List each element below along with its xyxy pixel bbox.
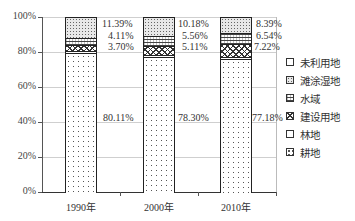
farmland-swatch-icon: [286, 148, 294, 156]
label-2000-farmland: 78.30%: [178, 112, 209, 123]
y-tick-label: 40%: [2, 115, 36, 126]
legend-item-unused-land: 未利用地: [286, 53, 340, 71]
legend-item-farmland: 耕地: [286, 143, 340, 161]
legend-item-forest: 林地: [286, 125, 340, 143]
legend-label: 水域: [300, 91, 320, 106]
legend-label: 滩涂湿地: [300, 73, 340, 88]
y-tick-mark: [38, 122, 42, 123]
label-2010-unused: 8.39%: [256, 18, 282, 29]
y-tick-label: 0%: [2, 185, 36, 196]
forest-swatch-icon: [286, 130, 294, 138]
construction-land-swatch-icon: [286, 112, 294, 120]
label-1990-construction: 3.70%: [108, 41, 134, 52]
water-swatch-icon: [286, 94, 294, 102]
label-1990-farmland: 80.11%: [103, 112, 133, 123]
label-2010-farmland: 77.18%: [252, 112, 283, 123]
segment-farmland: [221, 59, 251, 193]
segment-unused-land: [144, 18, 174, 36]
x-tick-mark: [198, 192, 199, 196]
segment-unused-land: [221, 18, 251, 33]
segment-farmland: [144, 57, 174, 193]
chart-legend: 未利用地 滩涂湿地 水域 建设用地 林地 耕地: [286, 53, 340, 161]
legend-item-construction-land: 建设用地: [286, 107, 340, 125]
segment-construction-land: [144, 46, 174, 55]
segment-unused-land: [66, 18, 96, 38]
segment-wetland: [221, 33, 251, 44]
segment-construction-land: [221, 44, 251, 57]
segment-wetland: [66, 38, 96, 45]
bar-2010: [220, 17, 252, 193]
label-2000-wetland: 5.56%: [182, 30, 208, 41]
label-2010-wetland: 6.54%: [256, 30, 282, 41]
y-tick-mark: [38, 17, 42, 18]
unused-land-swatch-icon: [286, 58, 294, 66]
x-tick-mark: [120, 192, 121, 196]
segment-farmland: [66, 53, 96, 193]
label-2010-construction: 7.22%: [254, 41, 280, 52]
y-tick-mark: [38, 52, 42, 53]
label-1990-wetland: 4.11%: [108, 30, 133, 41]
legend-label: 林地: [300, 127, 320, 142]
legend-label: 未利用地: [300, 55, 340, 70]
x-tick-label-2010: 2010年: [206, 199, 266, 214]
y-tick-mark: [38, 192, 42, 193]
label-1990-unused: 11.39%: [102, 18, 132, 29]
stacked-bar-chart: 100% 80% 60% 40% 20% 0% 1990年 2000年 2010…: [0, 0, 355, 221]
wetland-swatch-icon: [286, 76, 294, 84]
legend-label: 耕地: [300, 145, 320, 160]
segment-wetland: [144, 36, 174, 46]
y-tick-label: 80%: [2, 45, 36, 56]
bar-1990: [65, 17, 97, 193]
y-tick-label: 60%: [2, 80, 36, 91]
legend-item-wetland: 滩涂湿地: [286, 71, 340, 89]
x-tick-mark: [276, 192, 277, 196]
label-2000-unused: 10.18%: [178, 18, 209, 29]
y-tick-mark: [38, 157, 42, 158]
y-tick-label: 20%: [2, 150, 36, 161]
bar-2000: [143, 17, 175, 193]
y-axis: [42, 17, 43, 192]
legend-item-water: 水域: [286, 89, 340, 107]
y-tick-label: 100%: [2, 10, 36, 21]
y-tick-mark: [38, 87, 42, 88]
x-tick-label-2000: 2000年: [129, 199, 189, 214]
x-tick-label-1990: 1990年: [51, 199, 111, 214]
label-2000-construction: 5.11%: [182, 41, 207, 52]
legend-label: 建设用地: [300, 109, 340, 124]
